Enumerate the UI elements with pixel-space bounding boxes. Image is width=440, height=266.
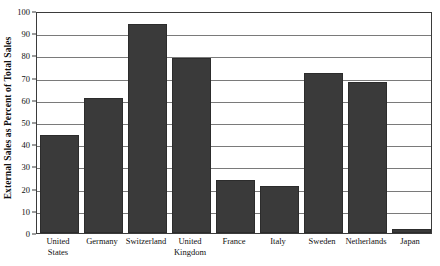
bar	[172, 58, 211, 233]
bar	[260, 186, 299, 233]
bar	[216, 180, 255, 233]
x-axis-label-line1: United	[178, 236, 201, 246]
x-axis-label-line2: States	[29, 247, 87, 258]
x-axis-label-line1: Italy	[270, 236, 286, 246]
bar	[40, 135, 79, 233]
y-tick-label: 100	[17, 7, 30, 17]
y-tick-label: 20	[22, 185, 31, 195]
bar	[128, 24, 167, 233]
plot-area	[36, 12, 432, 234]
y-axis-tick-labels: 0102030405060708090100	[14, 0, 32, 240]
y-tick-label: 90	[22, 29, 31, 39]
y-axis-title-text: External Sales as Percent of Total Sales	[3, 37, 13, 200]
bars-layer	[37, 13, 431, 233]
x-axis-label-line1: Sweden	[309, 236, 336, 246]
y-tick-label: 80	[22, 51, 31, 61]
bar-chart: External Sales as Percent of Total Sales…	[0, 0, 440, 266]
y-tick-label: 40	[22, 140, 31, 150]
bar	[348, 82, 387, 233]
y-tick-label: 50	[22, 118, 31, 128]
bar	[304, 73, 343, 233]
x-axis-label-line1: France	[222, 236, 245, 246]
y-tick-label: 70	[22, 74, 31, 84]
y-tick-label: 30	[22, 162, 31, 172]
x-axis-label-line2: Kingdom	[161, 247, 219, 258]
x-axis-category-labels: UnitedStatesGermanySwitzerlandUnitedKing…	[36, 236, 432, 266]
x-axis-label-line1: Japan	[400, 236, 419, 246]
bar	[84, 98, 123, 233]
x-axis-label-line1: United	[46, 236, 69, 246]
x-axis-label: Japan	[381, 236, 439, 247]
x-axis-label-line1: Germany	[86, 236, 118, 246]
bar	[392, 229, 431, 233]
y-tick-label: 60	[22, 96, 31, 106]
y-tick-label: 10	[22, 207, 31, 217]
